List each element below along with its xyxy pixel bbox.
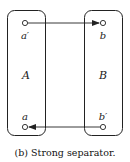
node-a [22, 124, 27, 129]
figure-caption: (b) Strong separator. [15, 147, 116, 158]
node-b-label: b [100, 30, 106, 41]
node-a-label: a [22, 111, 28, 122]
node-a-prime [22, 20, 27, 25]
partition-b-label: B [98, 69, 107, 82]
node-b-prime [100, 124, 105, 129]
node-a-prime-label: a′ [21, 30, 30, 41]
node-b-prime-label: b′ [99, 111, 108, 122]
partition-a-label: A [21, 69, 30, 82]
node-b [100, 20, 105, 25]
diagram-canvas: a′ b a b′ A B (b) Strong separator. [0, 0, 130, 162]
